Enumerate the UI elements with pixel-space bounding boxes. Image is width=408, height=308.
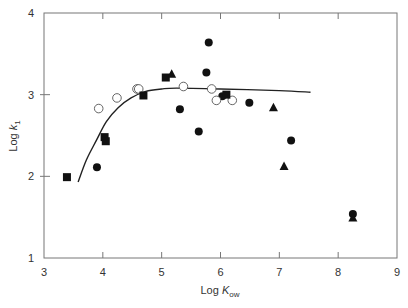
filled-square-marker (102, 137, 110, 145)
filled-circle-marker (287, 136, 295, 144)
filled-square-marker (139, 91, 147, 99)
filled-circle-marker (202, 69, 210, 77)
open-circle-marker (212, 96, 221, 105)
y-tick-label: 3 (28, 89, 34, 101)
x-tick-label: 4 (100, 266, 106, 278)
filled-circle-marker (205, 38, 213, 46)
open-circle-marker (179, 82, 188, 91)
y-tick-label: 4 (28, 7, 34, 19)
scatter-chart: 3456789 1234 Log Kow Log k1 (0, 0, 408, 308)
open-circle-marker (94, 104, 103, 113)
y-axis-title: Log k1 (7, 120, 22, 152)
x-tick-label: 7 (276, 266, 282, 278)
filled-square-marker (63, 173, 71, 181)
plot-frame (44, 13, 397, 258)
filled-circle-marker (176, 105, 184, 113)
fitted-curve-line (78, 88, 310, 182)
x-tick-label: 8 (335, 266, 341, 278)
filled-square-marker (222, 91, 230, 99)
open-circle-marker (207, 85, 216, 94)
filled-circle-marker (245, 99, 253, 107)
filled-triangle-marker (280, 162, 289, 171)
y-axis: 1234 (28, 7, 50, 264)
y-tick-label: 1 (28, 252, 34, 264)
x-tick-label: 3 (41, 266, 47, 278)
filled-triangle-marker (269, 103, 278, 112)
data-points (63, 38, 357, 221)
x-tick-label: 5 (159, 266, 165, 278)
x-axis-title: Log Kow (201, 284, 240, 299)
y-tick-label: 2 (28, 170, 34, 182)
x-tick-label: 6 (217, 266, 223, 278)
open-circle-marker (113, 94, 122, 103)
filled-circle-marker (93, 163, 101, 171)
filled-circle-marker (195, 127, 203, 135)
x-tick-label: 9 (394, 266, 400, 278)
filled-triangle-marker (167, 69, 176, 78)
x-axis: 3456789 (41, 13, 400, 278)
